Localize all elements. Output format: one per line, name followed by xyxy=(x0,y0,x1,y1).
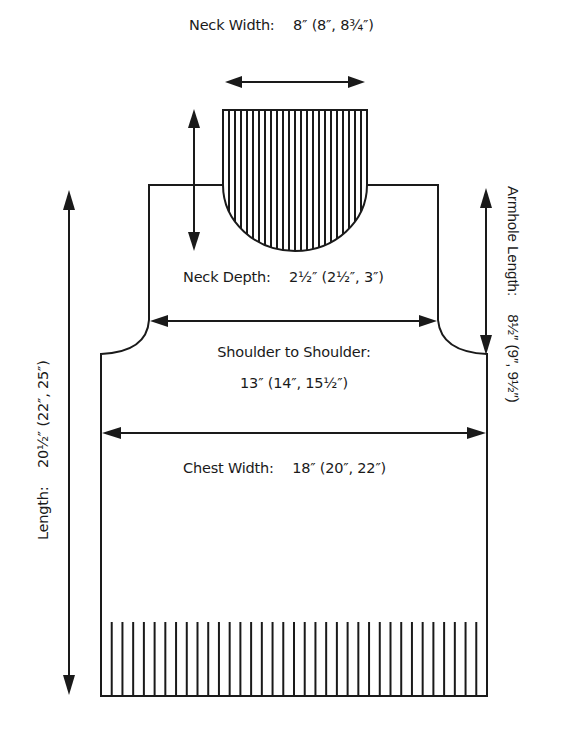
arrow-up-icon xyxy=(188,109,200,128)
arrow-left-icon xyxy=(225,76,242,88)
arrow-down-icon xyxy=(480,335,492,355)
shoulder-dimension xyxy=(150,315,437,327)
arrow-up-icon xyxy=(480,188,492,208)
arrow-right-icon xyxy=(419,315,437,327)
length-dimension xyxy=(63,190,75,695)
armhole-length-label: Armhole Length: 8½″ (9″, 9½″) xyxy=(505,186,522,403)
arrow-right-icon xyxy=(348,76,365,88)
chest-width-dimension xyxy=(102,427,486,439)
armhole-length-dimension xyxy=(480,188,492,355)
neck-depth-dimension xyxy=(188,109,200,251)
arrow-up-icon xyxy=(63,190,75,210)
hem-ribbing xyxy=(112,622,477,696)
neck-width-label: Neck Width: 8″ (8″, 8¾″) xyxy=(189,17,374,33)
neck-depth-label: Neck Depth: 2½″ (2½″, 3″) xyxy=(183,269,384,285)
shoulder-to-shoulder-label: Shoulder to Shoulder: xyxy=(217,344,370,360)
body-outline xyxy=(101,185,487,696)
arrow-right-icon xyxy=(467,427,486,439)
vest-schematic-diagram: Neck Width: 8″ (8″, 8¾″) Neck Depth: 2½″… xyxy=(0,0,565,745)
length-label: Length: 20½″ (22″, 25″) xyxy=(35,360,51,540)
neck-width-dimension xyxy=(225,76,365,88)
arrow-down-icon xyxy=(188,232,200,251)
arrow-down-icon xyxy=(63,675,75,695)
arrow-left-icon xyxy=(150,315,168,327)
arrow-left-icon xyxy=(102,427,121,439)
shoulder-to-shoulder-value: 13″ (14″, 15½″) xyxy=(240,375,348,391)
chest-width-label: Chest Width: 18″ (20″, 22″) xyxy=(183,460,386,476)
neck-ribbing xyxy=(223,110,367,260)
